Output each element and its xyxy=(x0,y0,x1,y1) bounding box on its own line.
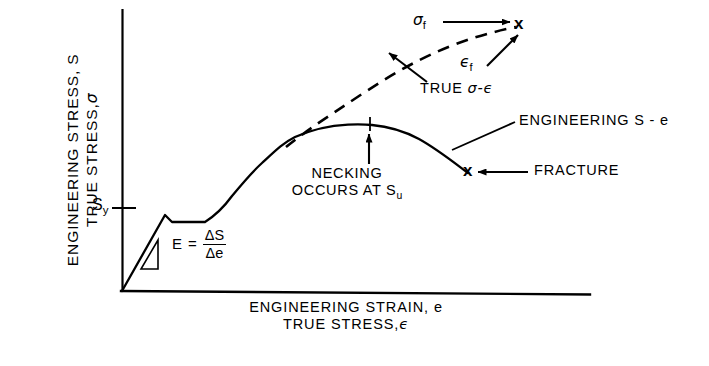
yield-stress-symbol: S xyxy=(92,196,103,213)
necking-line2-text: OCCURS AT S xyxy=(292,182,397,198)
sigma-epsilon-symbols: σ-ϵ xyxy=(468,80,494,96)
modulus-numerator: ΔS xyxy=(203,228,226,245)
x-axis xyxy=(121,291,590,295)
y-axis-title-line1: ENGINEERING STRESS, S xyxy=(64,53,81,266)
y-axis-title: ENGINEERING STRESS, S TRUE STRESS,σ xyxy=(65,15,101,305)
epsilon-symbol-x-axis: ϵ xyxy=(399,316,409,332)
ultimate-stress-subscript: u xyxy=(396,190,402,201)
stress-strain-figure: ENGINEERING STRESS, S TRUE STRESS,σ ENGI… xyxy=(0,0,709,366)
true-fracture-stress-label: σf xyxy=(413,12,426,32)
true-curve-label: TRUE σ-ϵ xyxy=(420,81,493,96)
engineering-curve-label: ENGINEERING S - e xyxy=(519,113,669,128)
modulus-equals-sign: = xyxy=(188,236,197,252)
epsilon-f-arrow xyxy=(487,35,518,66)
modulus-fraction: ΔS Δe xyxy=(203,228,226,260)
sigma-f-subscript: f xyxy=(423,19,426,31)
necking-line1: NECKING xyxy=(312,165,383,181)
epsilon-symbol: ϵ xyxy=(460,53,470,71)
true-fracture-strain-label: ϵf xyxy=(460,54,473,74)
yield-stress-subscript: y xyxy=(103,204,109,216)
x-axis-title-line1: ENGINEERING STRAIN, e xyxy=(249,299,443,315)
modulus-symbol: E xyxy=(172,236,182,252)
true-curve-arrow xyxy=(389,53,427,82)
epsilon-f-subscript: f xyxy=(470,61,473,73)
necking-line2: OCCURS AT Su xyxy=(262,183,432,202)
modulus-denominator: Δe xyxy=(204,245,226,261)
x-axis-title-line2: TRUE STRESS,ϵ xyxy=(196,317,496,332)
fracture-x-marker: x xyxy=(463,161,472,181)
yield-stress-label: Sy xyxy=(92,197,108,216)
engineering-stress-strain-curve xyxy=(122,124,468,291)
true-fracture-x-marker: x xyxy=(514,14,523,34)
necking-annotation: NECKING OCCURS AT Su xyxy=(262,166,432,202)
x-axis-title-line2-text: TRUE STRESS, xyxy=(283,316,399,332)
x-axis-title: ENGINEERING STRAIN, e TRUE STRESS,ϵ xyxy=(196,300,496,332)
modulus-formula: E = ΔS Δe xyxy=(172,228,226,260)
y-axis-title-line2: TRUE STRESS,σ xyxy=(85,15,101,305)
engineering-curve-leader xyxy=(452,122,515,150)
sigma-symbol: σ xyxy=(413,11,423,29)
fracture-label: FRACTURE xyxy=(534,163,619,178)
sigma-symbol-y-axis: σ xyxy=(84,93,102,104)
true-curve-prefix: TRUE xyxy=(420,80,468,96)
